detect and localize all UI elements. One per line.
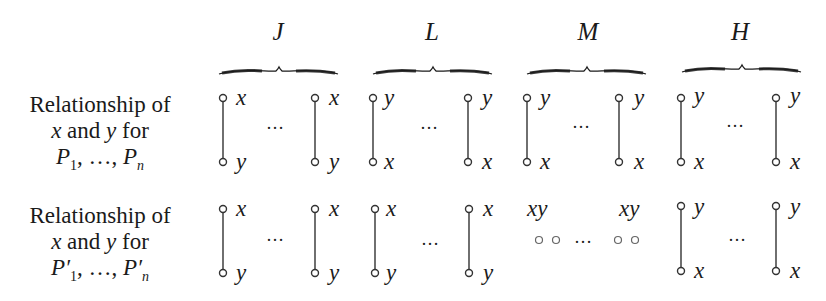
r1-h-top-left: y	[694, 84, 704, 107]
row-label-2-line2: x and y for	[0, 229, 200, 255]
row-label-1: Relationship of x and y for P1, …, Pn	[0, 92, 200, 179]
r1-h-top-right: y	[790, 84, 800, 107]
row-label-1-line3: P1, …, Pn	[0, 144, 200, 179]
r1-l-bot-right: x	[482, 150, 492, 173]
row-label-2-line3: P′1, …, P′n	[0, 255, 200, 290]
r2-m-ellipsis: …	[574, 227, 593, 248]
r2-l-bot-right: y	[483, 261, 493, 284]
r2-j-top-left: x	[236, 197, 246, 220]
r2-j-ellipsis: …	[266, 225, 285, 246]
r1-m-bot-right: x	[634, 150, 644, 173]
r1-l-top-right: y	[482, 86, 492, 109]
r1-j-ellipsis: …	[266, 113, 285, 134]
r1-h-bot-right: x	[790, 150, 800, 173]
r2-l-top-right: x	[483, 197, 493, 220]
r2-l-bot-left: y	[386, 261, 396, 284]
r1-h-bot-left: x	[694, 150, 704, 173]
r1-j-bot-right: y	[329, 150, 339, 173]
r1-m-top-left: y	[540, 86, 550, 109]
r2-l-top-left: x	[386, 197, 396, 220]
r1-m-ellipsis: …	[572, 112, 591, 133]
r2-h-bot-right: x	[790, 259, 800, 282]
r2-h-top-left: y	[694, 195, 704, 218]
r1-l-bot-left: x	[384, 150, 394, 173]
r2-h-top-right: y	[790, 195, 800, 218]
r2-j-bot-left: y	[236, 261, 246, 284]
r2-l-ellipsis: …	[421, 229, 440, 250]
r1-m-bot-left: x	[540, 150, 550, 173]
row-label-2: Relationship of x and y for P′1, …, P′n	[0, 203, 200, 290]
r2-m-top-left: xy	[527, 197, 547, 220]
r2-h-bot-left: x	[694, 259, 704, 282]
r2-j-top-right: x	[329, 197, 339, 220]
row-label-2-line1: Relationship of	[0, 203, 200, 229]
r1-l-top-left: y	[384, 86, 394, 109]
r1-j-top-right: x	[329, 86, 339, 109]
r1-l-ellipsis: …	[420, 113, 439, 134]
r2-j-bot-right: y	[329, 261, 339, 284]
r1-j-bot-left: y	[236, 150, 246, 173]
r1-h-ellipsis: …	[726, 111, 745, 132]
r1-m-top-right: y	[634, 86, 644, 109]
row-label-1-line1: Relationship of	[0, 92, 200, 118]
row-label-1-line2: x and y for	[0, 118, 200, 144]
r2-h-ellipsis: …	[728, 225, 747, 246]
r1-j-top-left: x	[236, 86, 246, 109]
r2-m-top-right: xy	[619, 197, 639, 220]
